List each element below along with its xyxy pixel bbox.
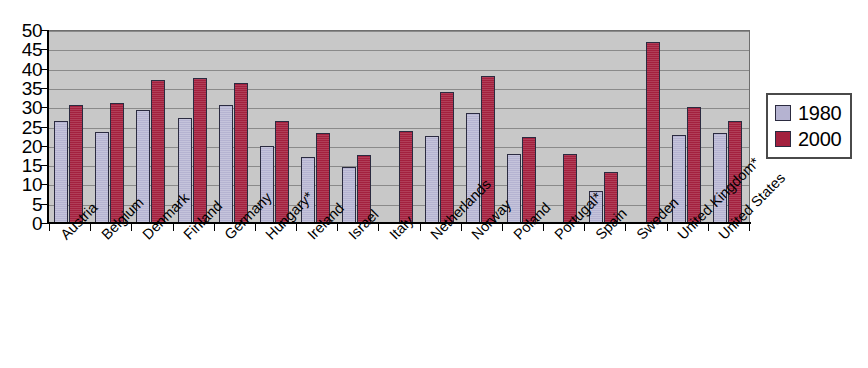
bar (481, 76, 495, 223)
legend-entry-2000: 2000 (775, 126, 841, 152)
y-tick-label: 40 (22, 59, 42, 78)
y-tick-mark (41, 146, 48, 147)
bar (69, 105, 83, 224)
bar (54, 121, 68, 223)
x-tick-mark (131, 224, 132, 231)
legend-label-2000: 2000 (798, 129, 841, 149)
legend-label-1980: 1980 (798, 103, 841, 123)
bar (425, 136, 439, 223)
y-tick-mark (41, 30, 48, 31)
y-tick-mark (41, 184, 48, 185)
y-tick-label: 45 (22, 40, 42, 59)
y-axis-labels: 50454035302520151050 (0, 22, 46, 226)
y-tick-label: 10 (22, 175, 42, 194)
x-tick-mark (49, 224, 50, 231)
x-tick-mark (255, 224, 256, 231)
y-tick-mark (41, 49, 48, 50)
x-axis-labels: AustriaBelgiumDenmarkFinlandGermanyHunga… (0, 232, 760, 368)
x-tick-mark (708, 224, 709, 231)
x-tick-mark (337, 224, 338, 231)
chart-legend: 1980 2000 (766, 93, 852, 159)
x-tick-mark (420, 224, 421, 231)
bars-layer (49, 30, 749, 223)
y-tick-mark (41, 223, 48, 224)
x-tick-mark (543, 224, 544, 231)
y-tick-label: 30 (22, 98, 42, 117)
x-tick-mark (625, 224, 626, 231)
y-tick-label: 50 (22, 21, 42, 40)
y-tick-mark (41, 107, 48, 108)
x-tick-mark (461, 224, 462, 231)
x-tick-mark (584, 224, 585, 231)
y-tick-mark (41, 204, 48, 205)
x-tick-mark (667, 224, 668, 231)
y-tick-mark (41, 165, 48, 166)
legend-swatch-2000-icon (775, 131, 791, 147)
y-tick-label: 20 (22, 136, 42, 155)
bar (110, 103, 124, 223)
legend-entry-1980: 1980 (775, 100, 841, 126)
bar (193, 78, 207, 223)
y-tick-label: 15 (22, 156, 42, 175)
bar (151, 80, 165, 223)
bar (646, 42, 660, 223)
y-tick-label: 35 (22, 78, 42, 97)
bar (440, 92, 454, 223)
x-tick-mark (378, 224, 379, 231)
bar (399, 131, 413, 223)
bar-chart: 50454035302520151050 AustriaBelgiumDenma… (0, 0, 868, 368)
x-tick-mark (214, 224, 215, 231)
x-tick-mark (749, 224, 750, 231)
y-tick-label: 25 (22, 117, 42, 136)
x-tick-mark (173, 224, 174, 231)
x-tick-mark (90, 224, 91, 231)
y-tick-mark (41, 127, 48, 128)
y-tick-mark (41, 88, 48, 89)
bar (234, 83, 248, 224)
legend-swatch-1980-icon (775, 105, 791, 121)
x-tick-mark (502, 224, 503, 231)
x-tick-mark (296, 224, 297, 231)
y-tick-mark (41, 69, 48, 70)
bar (342, 167, 356, 223)
